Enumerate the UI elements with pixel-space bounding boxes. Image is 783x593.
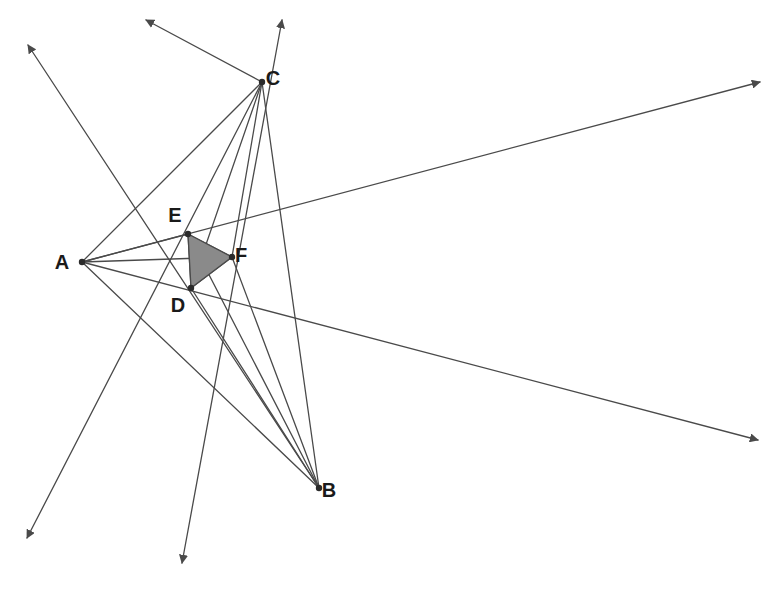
point-label-d: D (171, 294, 185, 316)
point-label-f: F (235, 244, 247, 266)
vertex-point-e (185, 231, 191, 237)
point-label-a: A (55, 251, 69, 273)
point-label-b: B (322, 479, 336, 501)
vertex-point-c (259, 79, 265, 85)
vertex-point-d (188, 285, 194, 291)
vertex-point-a (79, 259, 85, 265)
point-label-e: E (168, 204, 181, 226)
point-label-c: C (266, 67, 280, 89)
geometry-diagram: ABCDEF (0, 0, 783, 593)
